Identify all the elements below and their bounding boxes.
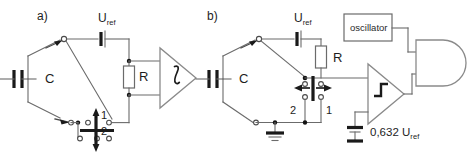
capacitor-label-b: C [239,72,248,85]
circuit-diagram-canvas: a) Uref C R 1 2 b) Uref C R oscillator 2… [0,0,472,153]
panel-b-label: b) [207,10,218,22]
switch-pole-wire-a [66,41,112,119]
resistor-r-a [124,61,135,95]
capacitor-c-a [0,70,36,88]
threshold-value-b: 0,632 U [370,126,410,138]
source-uref-label-a: Uref [98,12,116,24]
uref-main-a: U [98,11,107,25]
panel-b-circuit [196,14,466,141]
integrator-a [160,48,196,108]
comparator-output-wire-b [404,74,416,94]
ground-rail-b [254,120,321,140]
switch-pos-2-label-a: 2 [101,126,107,137]
switch-pos-2-label-b: 2 [290,105,296,116]
uref-sub-a: ref [107,18,116,27]
resistor-label-b: R [333,51,342,64]
source-uref-a [101,31,129,47]
threshold-source-b [347,112,368,141]
switch-blade-top-a[interactable] [46,41,62,49]
switch-blade-top-b[interactable] [241,41,257,49]
comparator-b [368,64,404,124]
panel-a-label: a) [37,10,48,22]
source-uref-b [297,31,321,47]
resistor-label-a: R [139,70,148,83]
threshold-label-b: 0,632 Uref [370,127,419,139]
capacitor-label-a: C [45,72,54,85]
and-gate-b [416,40,466,86]
uref-sub-b: ref [303,18,312,27]
capacitor-c-b [196,70,231,88]
source-uref-label-b: Uref [294,12,312,24]
switch-pos-1-label-a: 1 [101,110,107,121]
contact1-return-wire-a [112,95,129,123]
resistor-r-b [316,39,327,78]
switch-pole-wire-b [261,41,305,77]
oscillator-label-b: oscillator [350,23,388,33]
switch-pos-1-label-b: 1 [326,105,332,116]
oscillator-box-b [344,14,416,52]
uref-main-b: U [294,11,303,25]
switch-actuator-b[interactable] [294,76,332,101]
panel-a-circuit [0,31,196,152]
threshold-sub-b: ref [410,132,419,141]
